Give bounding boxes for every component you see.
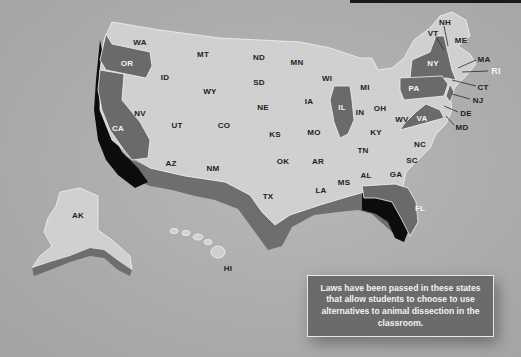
state-label-co: CO	[218, 121, 230, 130]
state-label-ok: OK	[277, 157, 289, 166]
info-box: Laws have been passed in these states th…	[307, 275, 494, 337]
state-label-me: ME	[455, 36, 467, 45]
state-label-or: OR	[121, 59, 133, 68]
state-label-hi: HI	[224, 264, 232, 273]
state-label-wy: WY	[203, 87, 216, 96]
state-label-fl: FL	[415, 204, 425, 213]
state-label-va: VA	[417, 114, 428, 123]
state-label-ak: AK	[72, 211, 84, 220]
state-label-ga: GA	[390, 170, 402, 179]
state-label-ut: UT	[171, 121, 182, 130]
state-label-nv: NV	[134, 109, 146, 118]
state-label-nh: NH	[439, 18, 451, 27]
state-label-az: AZ	[165, 159, 176, 168]
state-label-ks: KS	[269, 130, 281, 139]
state-label-sd: SD	[253, 78, 265, 87]
state-label-il: IL	[338, 103, 346, 112]
state-label-mt: MT	[197, 50, 209, 59]
state-label-ri: RI	[491, 66, 500, 76]
state-pa[interactable]	[400, 76, 448, 100]
state-label-wa: WA	[133, 38, 146, 47]
state-label-in: IN	[356, 108, 364, 117]
info-box-text: Laws have been passed in these states th…	[308, 283, 493, 329]
state-label-nd: ND	[253, 53, 265, 62]
state-label-ca: CA	[112, 124, 124, 133]
state-label-la: LA	[315, 186, 326, 195]
state-label-pa: PA	[409, 84, 420, 93]
state-hi[interactable]	[170, 229, 225, 259]
state-label-ct: CT	[477, 83, 488, 92]
state-label-sc: SC	[406, 156, 418, 165]
state-label-id: ID	[161, 73, 169, 82]
state-label-ky: KY	[370, 128, 382, 137]
state-label-mn: MN	[291, 58, 304, 67]
state-label-al: AL	[360, 171, 371, 180]
state-label-md: MD	[456, 123, 469, 132]
state-label-de: DE	[460, 109, 472, 118]
state-label-mo: MO	[307, 128, 320, 137]
state-label-ma: MA	[478, 55, 491, 64]
state-label-mi: MI	[360, 83, 369, 92]
state-label-oh: OH	[374, 104, 386, 113]
state-label-wi: WI	[322, 74, 332, 83]
state-label-tx: TX	[263, 192, 274, 201]
state-label-wv: WV	[395, 115, 408, 124]
state-label-ar: AR	[312, 157, 324, 166]
state-label-ia: IA	[305, 97, 313, 106]
state-label-nc: NC	[414, 140, 426, 149]
state-label-vt: VT	[428, 29, 439, 38]
state-label-ne: NE	[257, 103, 269, 112]
state-label-ms: MS	[338, 178, 350, 187]
state-label-nm: NM	[207, 164, 220, 173]
state-label-ny: NY	[427, 59, 439, 68]
state-label-tn: TN	[357, 146, 368, 155]
state-label-nj: NJ	[473, 96, 484, 105]
